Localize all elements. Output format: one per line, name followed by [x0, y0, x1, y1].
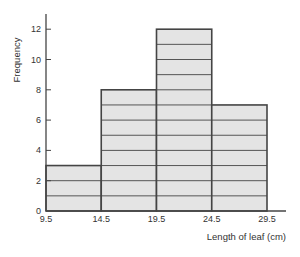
histogram-bar — [212, 105, 267, 211]
x-ticks: 9.514.519.524.529.5 — [40, 214, 276, 224]
histogram-bar — [101, 90, 156, 211]
x-axis-title: Length of leaf (cm) — [207, 231, 286, 242]
y-tick-label: 10 — [31, 55, 41, 65]
histogram-chart: 024681012 9.514.519.524.529.5 Frequency … — [0, 0, 300, 257]
y-tick-label: 6 — [36, 115, 41, 125]
bars — [46, 29, 267, 211]
y-tick-label: 12 — [31, 24, 41, 34]
y-tick-label: 4 — [36, 145, 41, 155]
x-tick-label: 9.5 — [40, 214, 53, 224]
y-axis-title: Frequency — [11, 37, 22, 82]
y-tick-label: 2 — [36, 176, 41, 186]
histogram-bar — [157, 29, 212, 211]
x-tick-label: 24.5 — [203, 214, 221, 224]
x-tick-label: 19.5 — [148, 214, 166, 224]
histogram-bar — [46, 166, 101, 211]
x-tick-label: 29.5 — [258, 214, 276, 224]
x-tick-label: 14.5 — [92, 214, 110, 224]
y-tick-label: 8 — [36, 85, 41, 95]
